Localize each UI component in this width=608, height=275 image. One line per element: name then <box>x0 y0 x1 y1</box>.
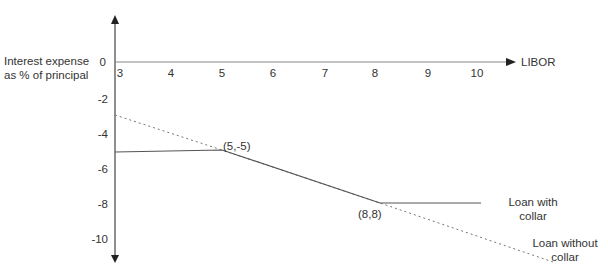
x-tick-label: 5 <box>212 67 232 80</box>
y-tick-label: -8 <box>78 198 108 211</box>
x-tick-label: 9 <box>418 67 438 80</box>
y-tick-label: -2 <box>78 93 108 106</box>
y-tick-label: -4 <box>78 128 108 141</box>
x-axis-title: LIBOR <box>521 56 556 69</box>
label-loan-with-collar-line2: collar <box>493 210 573 223</box>
annotation-point-5-neg5: (5,-5) <box>223 140 250 153</box>
y-tick-label: -6 <box>78 163 108 176</box>
label-loan-with-collar-line1: Loan with <box>493 196 573 209</box>
x-tick-label: 10 <box>467 67 487 80</box>
x-tick-label: 8 <box>365 67 385 80</box>
x-tick-label: 4 <box>161 67 181 80</box>
y-axis-title-line2: as % of principal <box>4 69 88 82</box>
label-loan-without-collar-line2: collar <box>525 251 605 264</box>
y-tick-label: -10 <box>78 233 108 246</box>
y-tick-label: 0 <box>76 56 106 69</box>
x-tick-label: 6 <box>263 67 283 80</box>
series-loan-without-collar <box>115 115 556 263</box>
x-tick-label: 3 <box>110 67 130 80</box>
x-tick-label: 7 <box>315 67 335 80</box>
label-loan-without-collar-line1: Loan without <box>525 237 605 250</box>
x-axis-right-arrow-icon <box>506 58 516 66</box>
series-loan-with-collar <box>115 150 481 203</box>
y-axis-down-arrow-icon <box>111 255 119 263</box>
y-axis-up-arrow-icon <box>111 15 119 24</box>
annotation-point-8-8: (8,8) <box>358 208 382 221</box>
